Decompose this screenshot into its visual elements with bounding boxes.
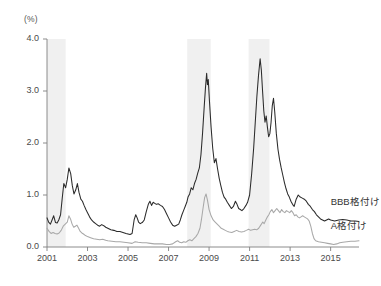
y-tick-label: 1.0	[5, 189, 39, 199]
x-tick-label: 2009	[187, 253, 231, 263]
series-label-a: A格付け	[331, 218, 367, 232]
chart-svg	[0, 0, 381, 286]
shaded-band-recession-2008	[187, 39, 211, 247]
chart-container: (%) 0.01.02.03.04.0 20012003200520072009…	[0, 0, 381, 286]
y-tick-label: 3.0	[5, 85, 39, 95]
y-tick-label: 4.0	[5, 33, 39, 43]
shaded-band-recession-2001	[47, 39, 66, 247]
series-label-bbb: BBB格付け	[331, 194, 380, 208]
x-tick-label: 2011	[228, 253, 272, 263]
y-tick-label: 0.0	[5, 241, 39, 251]
recession-shading-group	[47, 39, 269, 247]
x-tick-label: 2013	[268, 253, 312, 263]
y-tick-label: 2.0	[5, 137, 39, 147]
x-tick-label: 2001	[25, 253, 69, 263]
x-tick-label: 2003	[66, 253, 110, 263]
x-tick-label: 2007	[147, 253, 191, 263]
x-tick-label: 2015	[309, 253, 353, 263]
x-tick-label: 2005	[106, 253, 150, 263]
